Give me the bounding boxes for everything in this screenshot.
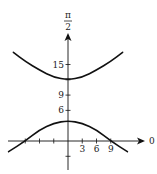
y-tick-label: 6 — [58, 105, 64, 115]
x-tick-label: 3 — [79, 144, 85, 154]
polar-chart: 0 π 2 3696915 — [0, 0, 157, 174]
y-tick-label: 15 — [53, 60, 65, 70]
x-axis-label: 0 — [149, 136, 155, 146]
y-axis-label-denominator: 2 — [65, 22, 71, 32]
y-axis-label-numerator: π — [65, 10, 71, 20]
y-tick-label: 9 — [58, 90, 64, 100]
x-tick-label: 6 — [94, 144, 100, 154]
x-tick-label: 9 — [108, 144, 114, 154]
axes — [8, 35, 143, 170]
